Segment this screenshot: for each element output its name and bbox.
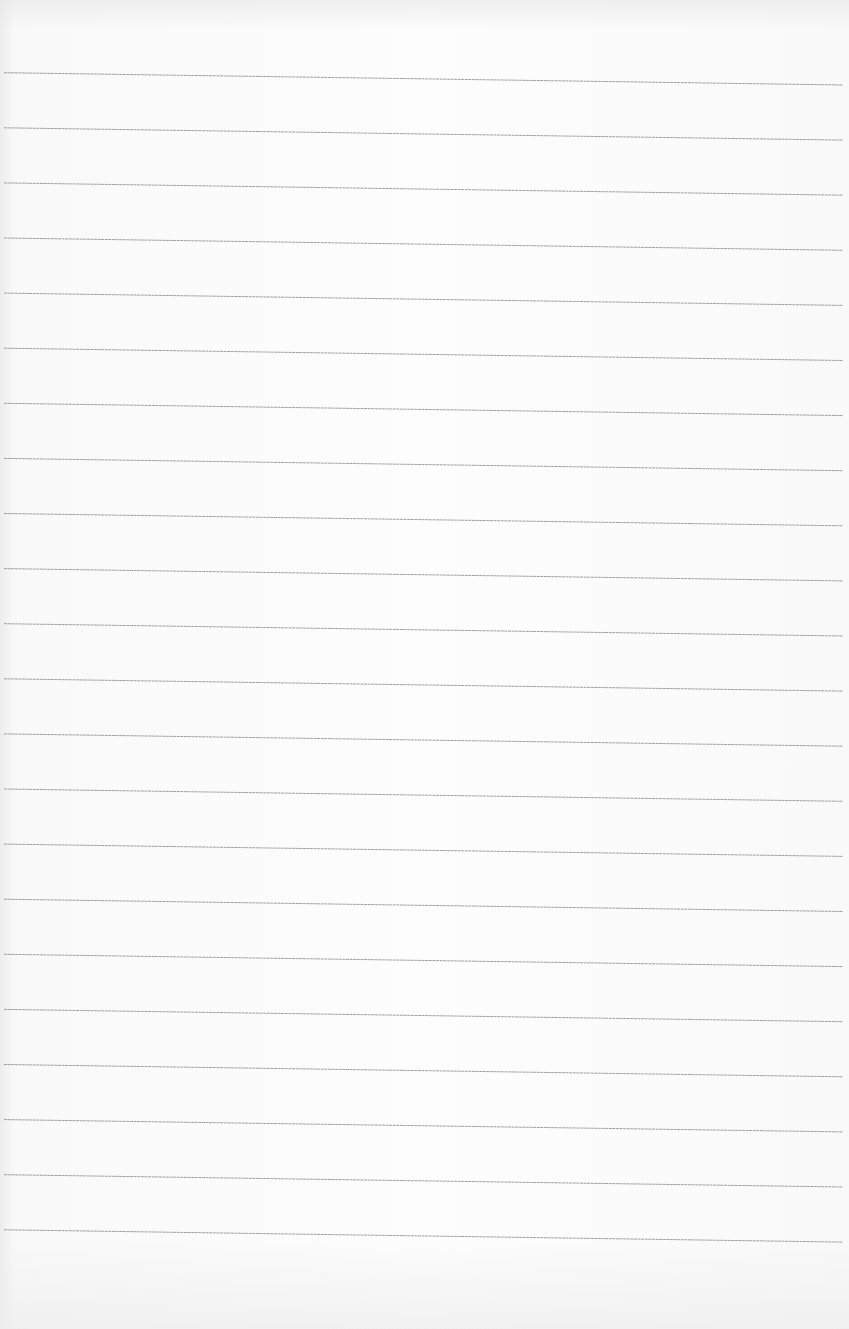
ruled-line bbox=[4, 1009, 843, 1021]
ruled-line bbox=[4, 569, 843, 581]
ruled-line bbox=[4, 954, 843, 966]
ruled-line bbox=[4, 679, 843, 691]
ruled-line bbox=[4, 844, 843, 856]
ruled-line bbox=[4, 183, 843, 195]
ruled-line bbox=[4, 1175, 843, 1187]
ruled-line bbox=[4, 458, 843, 470]
ruled-line bbox=[4, 624, 843, 636]
ruled-line bbox=[4, 403, 843, 415]
ruled-line bbox=[4, 734, 843, 746]
ruled-lines bbox=[0, 0, 849, 1329]
ruled-line bbox=[4, 128, 843, 140]
ruled-line bbox=[4, 1120, 843, 1132]
ruled-line bbox=[4, 238, 843, 250]
ruled-line bbox=[4, 1065, 843, 1077]
ruled-line bbox=[4, 789, 843, 801]
ruled-line bbox=[4, 293, 843, 305]
ruled-line bbox=[4, 899, 843, 911]
ruled-paper-page bbox=[0, 0, 849, 1329]
ruled-line bbox=[4, 514, 843, 526]
ruled-line bbox=[4, 73, 843, 85]
ruled-line bbox=[4, 348, 843, 360]
bottom-edge-shading bbox=[0, 1239, 849, 1329]
